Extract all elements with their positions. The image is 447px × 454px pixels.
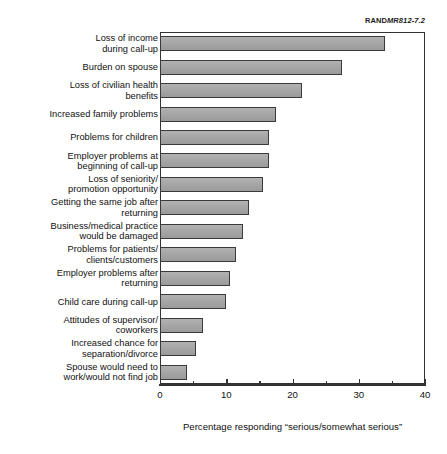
x-tick-label: 30 [353, 389, 364, 400]
bar-track [160, 243, 425, 266]
bar-row: Business/medical practice would be damag… [0, 220, 447, 243]
x-tick-major [160, 379, 161, 384]
bar [160, 341, 196, 356]
source-id-label: RANDMR812-7.2 [365, 16, 425, 25]
x-tick-major [425, 379, 426, 384]
bar-row: Getting the same job after returning [0, 196, 447, 219]
bar [160, 60, 342, 75]
bar-track [160, 126, 425, 149]
bar-row: Attitudes of supervisor/ coworkers [0, 313, 447, 336]
bar [160, 271, 230, 286]
category-label: Child care during call-up [12, 297, 158, 307]
bar-row: Loss of income during call-up [0, 32, 447, 55]
bar-row: Loss of civilian health benefits [0, 79, 447, 102]
bar-track [160, 313, 425, 336]
category-label: Business/medical practice would be damag… [12, 221, 158, 242]
x-tick-minor [259, 381, 260, 384]
bar-track [160, 196, 425, 219]
source-id-prefix: RAND [365, 16, 387, 25]
bar-row: Problems for children [0, 126, 447, 149]
category-label: Attitudes of supervisor/ coworkers [12, 315, 158, 336]
bar-track [160, 55, 425, 78]
bar [160, 36, 385, 51]
bar [160, 365, 187, 380]
bar [160, 83, 302, 98]
x-tick-label: 40 [420, 389, 431, 400]
source-id-number: MR812-7.2 [387, 16, 425, 25]
bar-row: Employer problems after returning [0, 267, 447, 290]
category-label: Burden on spouse [12, 62, 158, 72]
category-label: Employer problems at beginning of call-u… [12, 151, 158, 172]
category-label: Problems for children [12, 132, 158, 142]
bar-track [160, 220, 425, 243]
bar [160, 224, 243, 239]
category-label: Problems for patients/ clients/customers [12, 244, 158, 265]
x-tick-label: 10 [221, 389, 232, 400]
x-tick-major [293, 379, 294, 384]
bar [160, 177, 263, 192]
bar-row: Child care during call-up [0, 290, 447, 313]
bar-row: Spouse would need to work/would not find… [0, 360, 447, 383]
bar-row: Loss of seniority/ promotion opportunity [0, 173, 447, 196]
bar-track [160, 267, 425, 290]
x-axis-title: Percentage responding “serious/somewhat … [160, 421, 425, 432]
bar-track [160, 337, 425, 360]
bar [160, 200, 249, 215]
x-tick-minor [193, 381, 194, 384]
category-label: Getting the same job after returning [12, 197, 158, 218]
category-label: Employer problems after returning [12, 268, 158, 289]
x-axis-line [159, 384, 426, 386]
x-axis: 010203040 [160, 384, 425, 385]
bar-row: Employer problems at beginning of call-u… [0, 149, 447, 172]
category-label: Increased chance for separation/divorce [12, 338, 158, 359]
category-label: Spouse would need to work/would not find… [12, 362, 158, 383]
bar-track [160, 149, 425, 172]
x-tick-major [226, 379, 227, 384]
bar [160, 107, 276, 122]
bar [160, 130, 269, 145]
x-tick-minor [392, 381, 393, 384]
bar [160, 247, 236, 262]
bar-rows: Loss of income during call-upBurden on s… [0, 32, 447, 384]
bar [160, 318, 203, 333]
x-tick-minor [326, 381, 327, 384]
x-tick-label: 0 [157, 389, 162, 400]
bar-row: Burden on spouse [0, 55, 447, 78]
figure: RANDMR812-7.2 Loss of income during call… [0, 0, 447, 454]
bar-track [160, 32, 425, 55]
bar-row: Problems for patients/ clients/customers [0, 243, 447, 266]
bar-track [160, 79, 425, 102]
x-tick-major [359, 379, 360, 384]
bar-track [160, 102, 425, 125]
bar-row: Increased chance for separation/divorce [0, 337, 447, 360]
category-label: Loss of income during call-up [12, 33, 158, 54]
category-label: Loss of seniority/ promotion opportunity [12, 174, 158, 195]
x-tick-label: 20 [287, 389, 298, 400]
bar [160, 153, 269, 168]
bar-track [160, 173, 425, 196]
category-label: Loss of civilian health benefits [12, 80, 158, 101]
bar [160, 294, 226, 309]
bar-row: Increased family problems [0, 102, 447, 125]
bar-track [160, 290, 425, 313]
category-label: Increased family problems [12, 109, 158, 119]
